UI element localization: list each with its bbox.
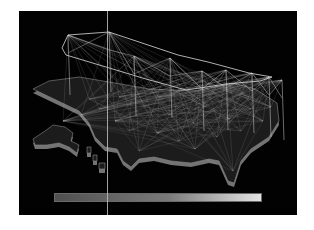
color-scale-legend	[54, 193, 262, 202]
vertical-cursor-slider[interactable]	[107, 11, 108, 215]
network-flow-map[interactable]	[19, 11, 297, 215]
3d-map-viewport[interactable]	[19, 11, 297, 215]
